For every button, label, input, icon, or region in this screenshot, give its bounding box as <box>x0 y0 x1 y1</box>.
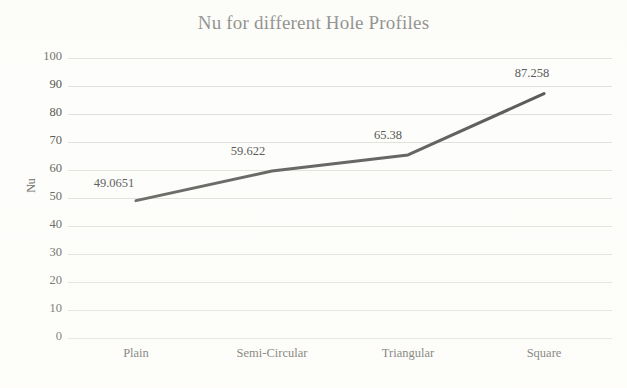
x-tick-label: Semi-Circular <box>237 346 308 361</box>
x-tick-label: Triangular <box>382 346 434 361</box>
line-chart: Nu for different Hole Profiles Nu 100908… <box>0 0 627 388</box>
x-tick-label: Plain <box>123 346 149 361</box>
data-label: 59.622 <box>231 144 265 159</box>
x-axis-tick-labels: PlainSemi-CircularTriangularSquare <box>0 0 627 388</box>
data-label: 87.258 <box>515 66 549 81</box>
data-label: 49.0651 <box>94 176 135 191</box>
data-label: 65.38 <box>374 128 402 143</box>
x-tick-label: Square <box>527 346 562 361</box>
